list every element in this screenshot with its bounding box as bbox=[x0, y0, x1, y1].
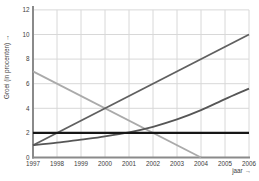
y-tick-label: 12 bbox=[22, 6, 30, 13]
series-line-linear-growth bbox=[33, 35, 249, 146]
x-tick-label: 2002 bbox=[146, 160, 161, 167]
x-tick-label: 2001 bbox=[122, 160, 137, 167]
x-axis-title-text: jaar bbox=[232, 167, 243, 174]
y-axis-title-text: Groei (in procenten) bbox=[3, 43, 10, 99]
x-tick-label: 1999 bbox=[74, 160, 89, 167]
x-tick-label: 1998 bbox=[50, 160, 65, 167]
x-tick-label: 1997 bbox=[26, 160, 41, 167]
right-arrow-icon: → bbox=[243, 167, 251, 174]
y-tick-label: 6 bbox=[26, 80, 30, 87]
x-tick-label: 2003 bbox=[170, 160, 185, 167]
up-arrow-icon: → bbox=[3, 35, 10, 43]
y-tick-label: 8 bbox=[26, 55, 30, 62]
gridlines bbox=[33, 10, 249, 158]
series-line-linear-decline bbox=[33, 71, 201, 157]
x-tick-label: 2006 bbox=[242, 160, 257, 167]
plot-area: 0246810121997199819992000200120022003200… bbox=[0, 0, 259, 181]
x-tick-label: 2005 bbox=[218, 160, 233, 167]
y-tick-label: 10 bbox=[22, 31, 30, 38]
y-tick-label: 4 bbox=[26, 105, 30, 112]
y-tick-label: 2 bbox=[26, 129, 30, 136]
growth-chart: 0246810121997199819992000200120022003200… bbox=[0, 0, 259, 181]
x-tick-label: 2000 bbox=[98, 160, 113, 167]
axes bbox=[32, 6, 250, 159]
series-line-exponential-growth bbox=[33, 89, 249, 146]
x-tick-label: 2004 bbox=[194, 160, 209, 167]
y-axis-title: Groei (in procenten)→ bbox=[3, 35, 10, 99]
x-axis-title: jaar→ bbox=[0, 167, 251, 174]
series-lines bbox=[33, 35, 249, 158]
